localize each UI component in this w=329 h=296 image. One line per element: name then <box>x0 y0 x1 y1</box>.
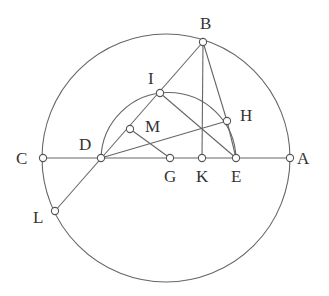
point-markers <box>39 38 293 214</box>
point-g-marker <box>166 154 173 161</box>
point-d-label: D <box>79 135 91 154</box>
point-l-label: L <box>33 208 43 227</box>
point-h-label: H <box>240 106 252 125</box>
point-m-marker <box>126 125 133 132</box>
point-e-label: E <box>231 167 241 186</box>
point-i-label: I <box>148 69 154 88</box>
segment-i-e <box>160 93 236 158</box>
point-l-marker <box>51 207 58 214</box>
point-c-marker <box>39 154 46 161</box>
point-a-label: A <box>297 149 310 168</box>
point-labels: ABCDEGHIKLM <box>16 14 310 227</box>
segment-h-e <box>227 121 236 158</box>
point-d-marker <box>97 154 104 161</box>
point-i-marker <box>156 89 163 96</box>
point-a-marker <box>286 154 293 161</box>
geometry-diagram: ABCDEGHIKLM <box>0 0 329 296</box>
point-m-label: M <box>145 117 160 136</box>
point-k-label: K <box>196 167 209 186</box>
point-k-marker <box>198 154 205 161</box>
point-g-label: G <box>164 167 176 186</box>
point-h-marker <box>223 117 230 124</box>
segment-d-h <box>101 121 227 158</box>
segment-b-h <box>203 42 227 121</box>
point-c-label: C <box>16 149 27 168</box>
point-b-marker <box>199 38 206 45</box>
point-e-marker <box>232 154 239 161</box>
semicircle-arc-d-i-e <box>101 92 236 158</box>
segment-b-k <box>202 42 203 158</box>
point-b-label: B <box>200 14 211 33</box>
